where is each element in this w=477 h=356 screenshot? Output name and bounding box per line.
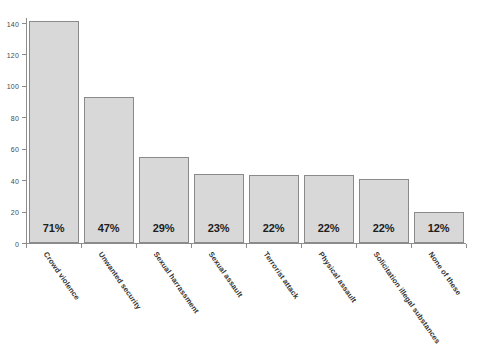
y-axis-tick-label: 140 (7, 20, 19, 27)
bar-value-label: 22% (373, 222, 395, 234)
bar-value-label: 22% (318, 222, 340, 234)
x-axis-tick (246, 244, 247, 248)
x-axis-tick (81, 244, 82, 248)
category-label: Unwanted security (97, 250, 144, 311)
bar: 29% (139, 157, 189, 243)
category-label: Physical assault (317, 250, 359, 304)
x-axis-tick (191, 244, 192, 248)
bar: 71% (29, 21, 79, 243)
y-axis-tick-label: 60 (11, 146, 19, 153)
category-label: Terrorist attack (262, 250, 301, 301)
y-axis-tick-label: 100 (7, 83, 19, 90)
category-label: None of these (427, 250, 464, 297)
bar-value-label: 22% (263, 222, 285, 234)
bar-value-label: 47% (98, 222, 120, 234)
x-axis-tick (26, 244, 27, 248)
y-axis-tick-label: 0 (15, 240, 19, 247)
bar-chart: 020406080100120140 71%47%29%23%22%22%22%… (0, 0, 477, 356)
y-axis-tick-label: 20 (11, 209, 19, 216)
x-axis-tick (411, 244, 412, 248)
category-label: Sexual assault (207, 250, 245, 299)
y-axis-tick-label: 40 (11, 177, 19, 184)
bar: 22% (359, 179, 409, 243)
bar-value-label: 29% (153, 222, 175, 234)
bar: 12% (414, 212, 464, 243)
x-axis-tick (301, 244, 302, 248)
x-axis-tick (466, 244, 467, 248)
bar-value-label: 71% (43, 222, 65, 234)
x-axis-tick (136, 244, 137, 248)
bar: 22% (304, 175, 354, 243)
bar-value-label: 12% (428, 222, 450, 234)
bar: 47% (84, 97, 134, 243)
category-label: Sexual harrassment (152, 250, 201, 315)
y-axis-tick-label: 120 (7, 51, 19, 58)
plot-area: 71%47%29%23%22%22%22%12% (26, 18, 466, 243)
category-label: Solicitation illegal substances (372, 250, 443, 345)
bar: 22% (249, 175, 299, 243)
bar: 23% (194, 174, 244, 243)
y-axis-tick-label: 80 (11, 114, 19, 121)
x-axis-tick (356, 244, 357, 248)
category-label: Crowd violence (42, 250, 82, 302)
bar-value-label: 23% (208, 222, 230, 234)
